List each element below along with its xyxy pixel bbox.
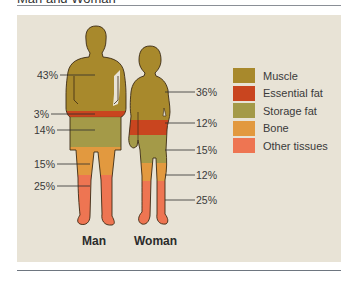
legend-item-other-tissues: Other tissues — [233, 137, 328, 155]
man-other-tissues-band — [60, 175, 135, 235]
woman-storage-fat-band — [125, 135, 175, 163]
legend: Muscle Essential fat Storage fat Bone Ot… — [233, 67, 328, 155]
bottom-divider — [17, 270, 341, 271]
legend-label: Bone — [263, 122, 289, 134]
woman-bone-band — [125, 163, 175, 181]
woman-muscle-band — [125, 40, 175, 120]
woman-essential-fat-pct: 12% — [196, 117, 217, 129]
legend-item-bone: Bone — [233, 120, 328, 138]
legend-label: Essential fat — [263, 87, 323, 99]
woman-muscle-pct: 36% — [196, 86, 217, 98]
man-bone-band — [60, 147, 135, 175]
woman-label: Woman — [134, 234, 177, 248]
man-label: Man — [82, 234, 106, 248]
woman-storage-fat-pct: 15% — [196, 144, 217, 156]
legend-label: Storage fat — [263, 105, 317, 117]
man-muscle-pct: 43% — [18, 69, 58, 81]
legend-label: Other tissues — [263, 140, 328, 152]
man-storage-fat-band — [60, 117, 135, 147]
legend-label: Muscle — [263, 70, 298, 82]
other-tissues-swatch — [233, 138, 255, 153]
muscle-swatch — [233, 68, 255, 83]
legend-item-essential-fat: Essential fat — [233, 85, 328, 103]
bone-swatch — [233, 121, 255, 136]
storage-fat-swatch — [233, 103, 255, 118]
man-other-tissues-pct: 25% — [15, 180, 55, 192]
man-bone-pct: 15% — [15, 158, 55, 170]
essential-fat-swatch — [233, 86, 255, 101]
man-storage-fat-pct: 14% — [15, 124, 55, 136]
man-essential-fat-pct: 3% — [9, 108, 49, 120]
legend-item-muscle: Muscle — [233, 67, 328, 85]
man-muscle-band — [60, 20, 135, 111]
woman-bone-pct: 12% — [196, 169, 217, 181]
legend-item-storage-fat: Storage fat — [233, 102, 328, 120]
man-figure — [60, 20, 135, 235]
woman-other-tissues-pct: 25% — [196, 194, 217, 206]
